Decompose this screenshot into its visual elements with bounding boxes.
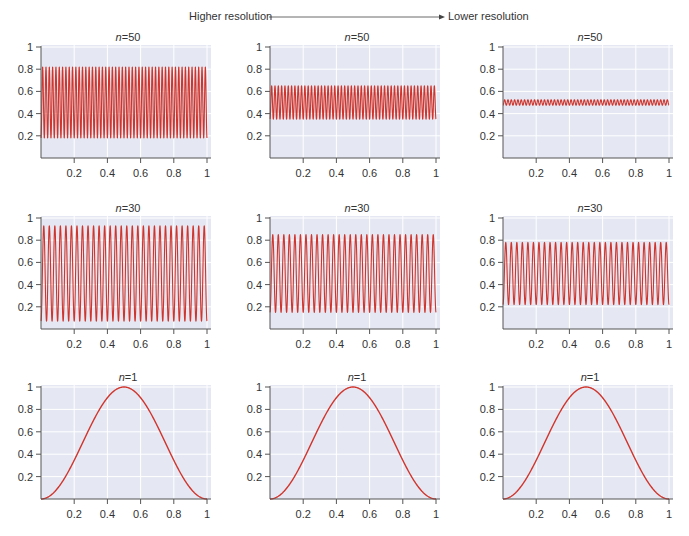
title-value: =50 [584,31,603,43]
y-tick-label: 0.4 [480,448,495,460]
x-tick-label: 1 [204,508,210,520]
title-value: =1 [125,371,138,383]
x-tick-label: 0.8 [395,338,410,350]
panel-r2-c3: 0.20.40.60.810.20.40.60.81n=30 [480,202,673,350]
y-tick-label: 0.4 [480,279,495,291]
y-tick-label: 0.4 [247,108,262,120]
y-tick-label: 0.2 [480,130,495,142]
y-tick-label: 0.4 [18,279,33,291]
title-value: =50 [122,31,141,43]
panels: 0.20.40.60.810.20.40.60.81n=500.20.40.60… [18,31,673,520]
panel-r3-c2: 0.20.40.60.810.20.40.60.81n=1 [247,371,440,520]
x-tick-label: 0.8 [395,508,410,520]
x-tick-label: 0.2 [67,508,82,520]
y-tick-label: 0.6 [247,256,262,268]
y-tick-label: 0.2 [480,471,495,483]
title-value: =50 [351,31,370,43]
title-value: =1 [354,371,367,383]
y-tick-label: 0.2 [247,471,262,483]
y-tick-label: 0.6 [18,426,33,438]
x-tick-label: 0.6 [362,338,377,350]
x-tick-label: 0.8 [166,167,181,179]
figure-header: Higher resolution Lower resolution [0,0,689,30]
x-tick-label: 1 [666,167,672,179]
x-tick-label: 0.4 [562,338,577,350]
y-tick-label: 0.8 [247,234,262,246]
x-tick-label: 0.4 [100,508,115,520]
x-tick-label: 0.4 [100,338,115,350]
y-tick-label: 0.4 [247,448,262,460]
y-tick-label: 0.2 [480,301,495,313]
y-tick-label: 0.4 [480,108,495,120]
y-tick-label: 0.2 [247,301,262,313]
x-tick-label: 1 [433,508,439,520]
y-tick-label: 0.6 [480,85,495,97]
y-tick-label: 1 [256,212,262,224]
y-tick-label: 1 [256,41,262,53]
x-tick-label: 0.8 [395,167,410,179]
y-tick-label: 0.8 [480,63,495,75]
x-tick-label: 0.6 [595,508,610,520]
panel-r1-c1: 0.20.40.60.810.20.40.60.81n=50 [18,31,211,179]
y-tick-label: 0.6 [480,256,495,268]
x-tick-label: 1 [666,508,672,520]
x-tick-label: 0.2 [529,508,544,520]
panel-title: n=30 [345,202,370,214]
y-tick-label: 1 [27,41,33,53]
x-tick-label: 0.2 [67,167,82,179]
x-tick-label: 0.2 [296,167,311,179]
panel-r3-c3: 0.20.40.60.810.20.40.60.81n=1 [480,371,673,520]
y-tick-label: 0.6 [18,256,33,268]
panel-r2-c2: 0.20.40.60.810.20.40.60.81n=30 [247,202,440,350]
x-tick-label: 0.8 [166,508,181,520]
x-tick-label: 0.4 [100,167,115,179]
x-tick-label: 0.6 [595,167,610,179]
x-tick-label: 1 [666,338,672,350]
title-value: =30 [122,202,141,214]
panel-r3-c1: 0.20.40.60.810.20.40.60.81n=1 [18,371,211,520]
x-tick-label: 1 [433,167,439,179]
x-tick-label: 0.4 [562,508,577,520]
y-tick-label: 1 [27,212,33,224]
panel-r1-c3: 0.20.40.60.810.20.40.60.81n=50 [480,31,673,179]
panel-r2-c1: 0.20.40.60.810.20.40.60.81n=30 [18,202,211,350]
y-tick-label: 0.6 [247,426,262,438]
y-tick-label: 1 [27,381,33,393]
y-tick-label: 1 [489,212,495,224]
plot-background [503,216,673,329]
y-tick-label: 0.8 [480,234,495,246]
y-tick-label: 0.8 [18,234,33,246]
panel-r1-c2: 0.20.40.60.810.20.40.60.81n=50 [247,31,440,179]
panel-title: n=1 [348,371,367,383]
y-tick-label: 0.2 [18,130,33,142]
x-tick-label: 0.8 [628,167,643,179]
x-tick-label: 0.2 [296,508,311,520]
x-tick-label: 1 [433,338,439,350]
y-tick-label: 0.2 [18,301,33,313]
x-tick-label: 0.4 [329,167,344,179]
y-tick-label: 0.4 [18,108,33,120]
y-tick-label: 0.2 [18,471,33,483]
x-tick-label: 0.2 [529,167,544,179]
panel-title: n=50 [578,31,603,43]
y-tick-label: 0.8 [247,403,262,415]
panel-title: n=1 [581,371,600,383]
x-tick-label: 0.4 [562,167,577,179]
x-tick-label: 0.2 [529,338,544,350]
y-tick-label: 1 [256,381,262,393]
x-tick-label: 1 [204,167,210,179]
x-tick-label: 0.6 [595,338,610,350]
x-tick-label: 0.6 [133,508,148,520]
panel-title: n=50 [345,31,370,43]
lower-resolution-label: Lower resolution [448,10,529,22]
x-tick-label: 0.4 [329,338,344,350]
y-tick-label: 1 [489,41,495,53]
x-tick-label: 0.6 [362,167,377,179]
x-tick-label: 0.6 [133,167,148,179]
higher-resolution-label: Higher resolution [189,10,272,22]
y-tick-label: 0.8 [18,63,33,75]
x-tick-label: 0.2 [67,338,82,350]
y-tick-label: 0.6 [247,85,262,97]
y-tick-label: 0.4 [18,448,33,460]
y-tick-label: 0.6 [480,426,495,438]
